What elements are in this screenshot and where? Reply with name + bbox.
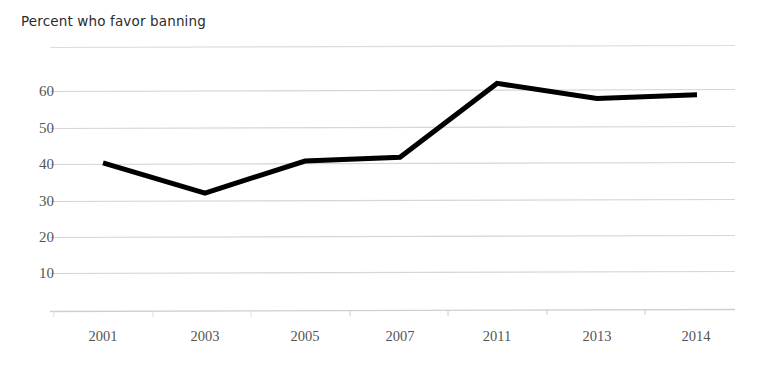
x-axis-label-2014: 2014 — [666, 328, 726, 345]
gridline-70 — [50, 46, 735, 48]
x-axis-label-2005: 2005 — [275, 328, 335, 345]
x-axis-label-2001: 2001 — [73, 328, 133, 345]
y-axis-label-40: 40 — [20, 156, 54, 173]
gridline-60 — [50, 90, 735, 92]
gridline-50 — [50, 127, 735, 129]
y-axis-label-30: 30 — [20, 193, 54, 210]
gridline-10 — [50, 272, 735, 274]
x-axis-label-2007: 2007 — [370, 328, 430, 345]
plot-area — [0, 0, 759, 370]
y-axis-label-20: 20 — [20, 229, 54, 246]
gridline-40 — [50, 163, 735, 165]
gridline-20 — [50, 236, 735, 238]
chart-container: Percent who favor banning 60 50 40 30 20… — [0, 0, 759, 370]
y-axis-label-10: 10 — [20, 265, 54, 282]
data-series-line — [103, 83, 697, 193]
x-axis-label-2011: 2011 — [467, 328, 527, 345]
gridline-30 — [50, 200, 735, 202]
y-axis-label-50: 50 — [20, 120, 54, 137]
x-axis-label-2013: 2013 — [567, 328, 627, 345]
x-axis-label-2003: 2003 — [175, 328, 235, 345]
y-axis-label-60: 60 — [20, 83, 54, 100]
